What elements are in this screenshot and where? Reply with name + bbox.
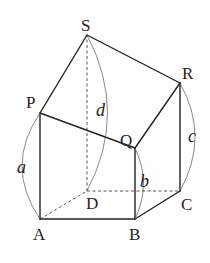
vertex-label-D: D <box>86 194 98 213</box>
length-label-a: a <box>17 157 26 177</box>
edge-AD <box>40 191 87 219</box>
vertex-label-A: A <box>33 225 46 244</box>
edge-SR <box>87 35 180 83</box>
length-label-c: c <box>188 126 196 146</box>
vertex-label-S: S <box>81 16 90 35</box>
length-label-d: d <box>96 100 106 120</box>
edge-PS <box>40 35 87 113</box>
vertex-label-R: R <box>182 64 194 83</box>
length-label-b: b <box>140 171 149 191</box>
vertex-label-C: C <box>181 195 192 214</box>
vertex-label-Q: Q <box>120 131 132 150</box>
vertex-label-P: P <box>26 93 35 112</box>
edge-QR <box>135 83 180 148</box>
edge-BC <box>135 191 180 219</box>
vertex-label-B: B <box>129 225 140 244</box>
prism-diagram: a b c d S P R Q A B C D <box>0 0 210 263</box>
